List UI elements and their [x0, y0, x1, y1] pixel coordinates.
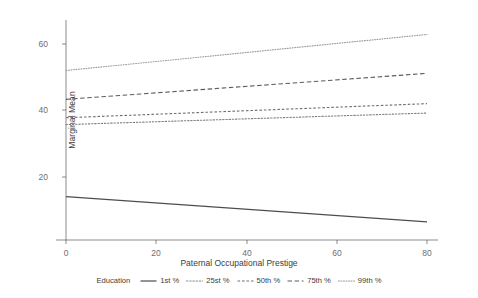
- legend-label-50th: 50th %: [257, 276, 281, 285]
- chart-legend: Education 1st % 25st % 50th % 75th %: [0, 276, 478, 285]
- y-tick-20: 20: [24, 172, 48, 182]
- series-line-99th: [66, 34, 427, 70]
- x-tick-20: 20: [141, 248, 171, 258]
- x-tick-80: 80: [412, 248, 442, 258]
- legend-key-shortdash-icon: [237, 277, 254, 285]
- y-axis-ticks: [62, 44, 66, 177]
- y-tick-60: 60: [24, 39, 48, 49]
- legend-item-50th: 50th %: [237, 276, 281, 285]
- x-axis-title: Paternal Occupational Prestige: [0, 258, 478, 268]
- legend-label-99th: 99th %: [358, 276, 382, 285]
- legend-key-dotted-icon: [186, 277, 203, 285]
- legend-key-solid-icon: [140, 277, 157, 285]
- series-line-50th: [66, 104, 427, 118]
- legend-item-1st: 1st %: [140, 276, 179, 285]
- x-tick-0: 0: [51, 248, 81, 258]
- series-line-25st: [66, 113, 427, 125]
- series-line-1st: [66, 197, 427, 222]
- marginal-mean-chart: Marginal Mean 60 40 20: [0, 0, 478, 298]
- legend-item-75th: 75th %: [287, 276, 331, 285]
- x-tick-60: 60: [322, 248, 352, 258]
- plot-svg: [54, 18, 438, 246]
- legend-title: Education: [97, 276, 131, 285]
- legend-item-99th: 99th %: [338, 276, 382, 285]
- legend-label-75th: 75th %: [307, 276, 331, 285]
- legend-key-finedot-icon: [338, 277, 355, 285]
- legend-item-25st: 25st %: [186, 276, 229, 285]
- x-axis-ticks: [66, 240, 427, 244]
- legend-label-1st: 1st %: [160, 276, 179, 285]
- y-tick-40: 40: [24, 105, 48, 115]
- series-line-75th: [66, 73, 427, 99]
- legend-label-25st: 25st %: [206, 276, 229, 285]
- plot-area: [54, 18, 438, 246]
- x-tick-40: 40: [232, 248, 262, 258]
- legend-key-dashed-icon: [287, 277, 304, 285]
